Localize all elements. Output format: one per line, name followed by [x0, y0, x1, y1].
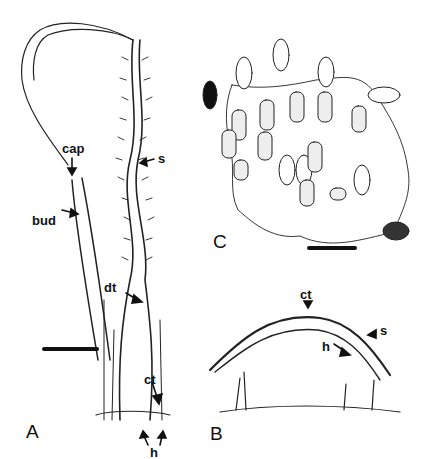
label-ct-b: ct	[300, 288, 312, 301]
label-dt: dt	[104, 281, 116, 294]
panel-label-b: B	[210, 424, 223, 443]
illustration	[0, 0, 425, 459]
label-h-a: h	[150, 446, 158, 459]
stem-right	[136, 40, 152, 420]
connecting-thread	[210, 317, 390, 375]
label-s-a: s	[158, 152, 165, 165]
label-h-b: h	[322, 340, 330, 353]
bud-shoot	[72, 180, 98, 360]
label-ct-a: ct	[144, 373, 156, 386]
label-cap: cap	[62, 142, 84, 155]
label-bud: bud	[32, 214, 56, 227]
panel-label-a: A	[26, 422, 39, 441]
label-s-b: s	[380, 324, 387, 337]
panel-label-c: C	[213, 232, 227, 251]
